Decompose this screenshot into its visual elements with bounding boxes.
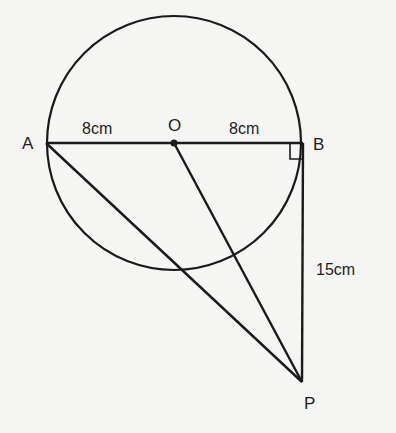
geometry-diagram: A O B P 8cm 8cm 15cm — [0, 0, 396, 433]
label-bp-length: 15cm — [316, 262, 355, 278]
segment-ap — [46, 143, 302, 382]
diagram-svg — [0, 0, 396, 433]
label-ao-length: 8cm — [82, 121, 112, 137]
label-p: P — [304, 395, 315, 412]
label-ob-length: 8cm — [229, 121, 259, 137]
segment-bp — [302, 143, 303, 382]
label-b: B — [313, 136, 324, 153]
label-o: O — [168, 117, 181, 134]
label-a: A — [22, 135, 33, 152]
point-o-dot — [171, 140, 178, 147]
segment-op — [174, 143, 302, 382]
